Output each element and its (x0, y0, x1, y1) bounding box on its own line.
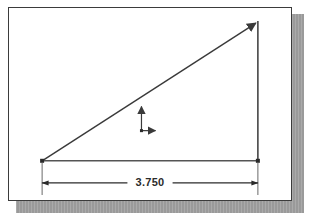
cad-drawing-canvas (9, 8, 291, 200)
figure-root: 3.750 (0, 0, 309, 217)
ucs-origin-node (140, 129, 143, 132)
ucs-coordinate-icon (140, 107, 156, 133)
dimension-value-label: 3.750 (131, 176, 168, 189)
bottom-right-vertex-node (256, 159, 260, 163)
drawing-page: 3.750 (8, 7, 292, 201)
bottom-left-vertex-node (40, 159, 44, 163)
triangle-hypotenuse (42, 23, 256, 161)
